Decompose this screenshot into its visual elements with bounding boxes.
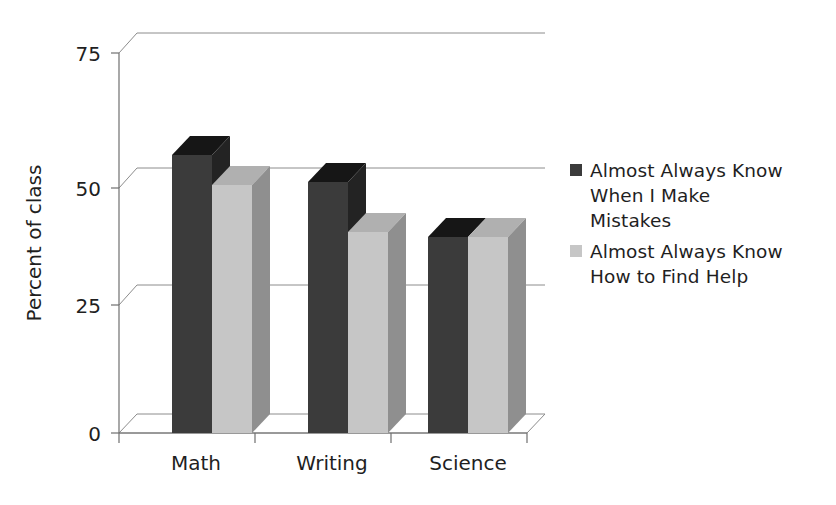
bar-writing-series2 — [348, 213, 406, 433]
y-tick-label-25: 25 — [76, 294, 101, 318]
gridline-75 — [119, 33, 545, 53]
legend-label-2: Almost Always Know How to Find Help — [590, 239, 783, 289]
y-tick-label-50: 50 — [76, 177, 101, 201]
x-label-math: Math — [171, 451, 221, 475]
y-tick-label-0: 0 — [88, 422, 101, 446]
x-tick-labels: Math Writing Science — [171, 451, 507, 475]
legend-entry-1: Almost Always Know When I Make Mistakes — [570, 158, 828, 233]
legend-label-1: Almost Always Know When I Make Mistakes — [590, 158, 783, 233]
bar-chart: 75 50 25 0 Percent of class — [0, 0, 836, 505]
x-label-science: Science — [429, 451, 507, 475]
chart-legend: Almost Always Know When I Make Mistakes … — [570, 158, 828, 295]
y-axis-title: Percent of class — [22, 165, 46, 322]
x-label-writing: Writing — [296, 451, 367, 475]
legend-swatch-light-icon — [570, 245, 582, 257]
bar-math-series2 — [212, 166, 270, 433]
legend-swatch-dark-icon — [570, 164, 582, 176]
y-tick-labels: 75 50 25 0 — [76, 42, 101, 446]
bar-science-series2 — [468, 218, 526, 433]
legend-entry-2: Almost Always Know How to Find Help — [570, 239, 828, 289]
y-tick-label-75: 75 — [76, 42, 101, 66]
